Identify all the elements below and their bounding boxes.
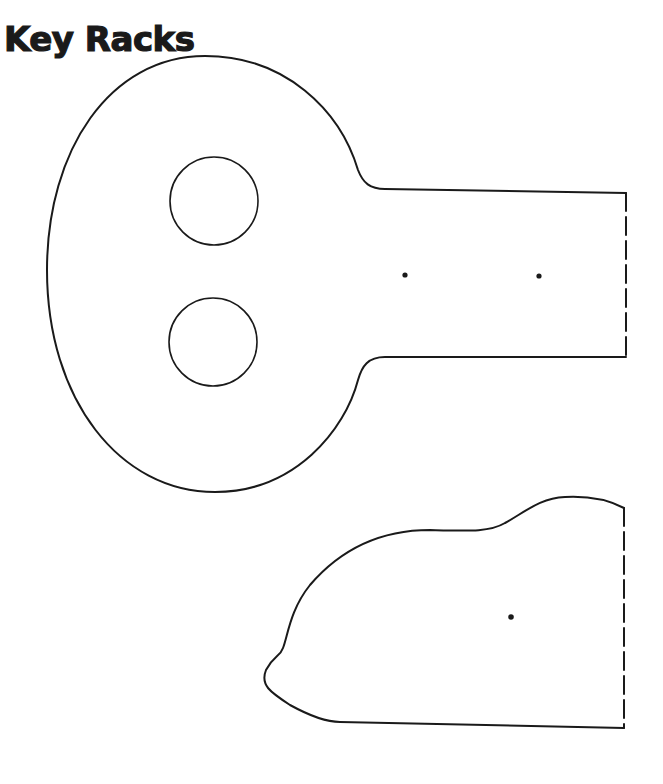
handle-top-edge — [385, 189, 626, 193]
circle-cutout-top — [170, 157, 258, 245]
nail-hole-dot — [508, 614, 514, 620]
side-outline — [264, 497, 624, 728]
circle-cutout-bottom — [169, 298, 257, 386]
nail-hole-dot — [536, 273, 541, 278]
nail-hole-dot — [402, 272, 407, 277]
key-rack-side-piece — [264, 497, 624, 728]
pattern-sheet — [0, 0, 663, 784]
